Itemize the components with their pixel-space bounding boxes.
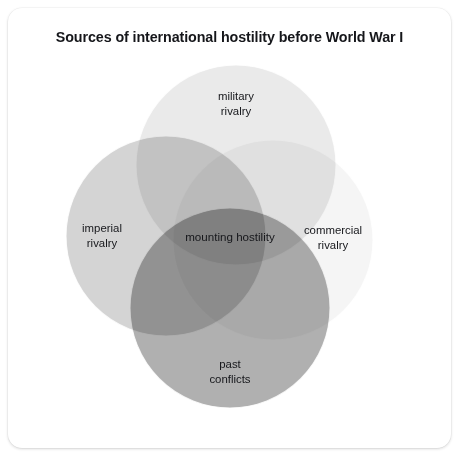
venn-circles-svg <box>8 8 451 448</box>
figure-card: Sources of international hostility befor… <box>8 8 451 448</box>
venn-diagram: military rivalry imperial rivalry commer… <box>8 8 451 448</box>
venn-circle-past[interactable] <box>130 208 330 408</box>
